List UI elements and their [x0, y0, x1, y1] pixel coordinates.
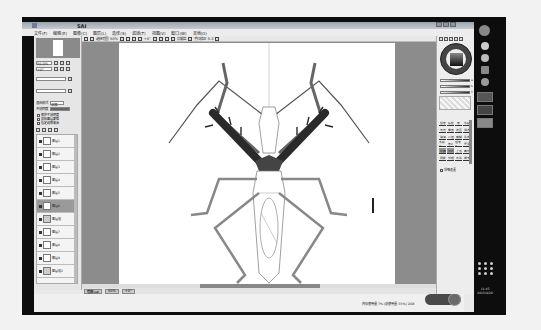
menu-file[interactable]: 文件(F) — [34, 30, 47, 36]
zoom-fit-button[interactable] — [132, 37, 136, 41]
app-icon-4[interactable] — [481, 78, 489, 86]
tool-detail-option[interactable]: 详细设置 — [440, 168, 456, 172]
texture-select[interactable] — [36, 77, 66, 81]
zoom-value[interactable]: 50% — [110, 37, 118, 41]
zoom-out-button[interactable] — [60, 61, 64, 65]
tray-icon[interactable] — [490, 272, 493, 275]
layer-item[interactable]: 图层7 — [37, 226, 77, 239]
eye-icon[interactable] — [39, 231, 42, 234]
stabilizer-value[interactable]: S-3 — [208, 37, 214, 41]
menu-other[interactable]: 其他(O) — [193, 30, 207, 36]
tray-icon[interactable] — [490, 267, 493, 270]
tool-button[interactable]: 橡皮 — [447, 127, 454, 133]
layer-item-selected[interactable]: 图层6 — [37, 200, 77, 213]
blend-mode-select[interactable]: 正常 — [50, 101, 64, 105]
hue-slider[interactable] — [440, 79, 470, 82]
rotate-right-button[interactable] — [159, 37, 163, 41]
flip-button[interactable] — [171, 37, 175, 41]
taskbar-app-2[interactable] — [477, 105, 493, 115]
minimize-button[interactable] — [436, 22, 442, 27]
layer-folder[interactable]: 图层组 — [37, 213, 77, 226]
app-icon-3[interactable] — [481, 66, 489, 74]
tray-icon[interactable] — [490, 262, 493, 265]
canvas[interactable] — [119, 43, 395, 293]
effect-select[interactable] — [36, 89, 66, 93]
tool-button[interactable]: 铅笔2 — [455, 141, 462, 147]
app-icon-2[interactable] — [481, 54, 489, 62]
tool-button[interactable]: 平涂 — [455, 155, 462, 161]
eye-icon[interactable] — [39, 179, 42, 182]
checkbox[interactable] — [440, 169, 443, 172]
tool-button[interactable]: 阴影 — [439, 155, 446, 161]
navigator[interactable] — [36, 38, 80, 58]
menu-filter[interactable]: 滤镜(T) — [132, 30, 146, 36]
tool-button[interactable]: 铅笔 — [439, 120, 446, 126]
zoom-field[interactable]: 50.0% — [36, 61, 52, 65]
eye-icon[interactable] — [39, 270, 42, 273]
zoom-reset-button[interactable] — [138, 37, 142, 41]
layer-item[interactable]: 图层9 — [37, 252, 77, 265]
opacity-slider[interactable] — [50, 107, 70, 111]
swatch-toggle[interactable] — [459, 37, 463, 41]
taskbar-app-1[interactable] — [477, 92, 493, 102]
file-tab[interactable]: 螳螂.sai — [84, 289, 102, 294]
layer-item[interactable]: 图层1 — [37, 135, 77, 148]
layer-item[interactable]: 图层8 — [37, 239, 77, 252]
eye-icon[interactable] — [39, 166, 42, 169]
eye-icon[interactable] — [39, 140, 42, 143]
zoom-in-button[interactable] — [120, 37, 124, 41]
palette-toggle[interactable] — [454, 37, 458, 41]
tool-button[interactable]: 马克 — [439, 127, 446, 133]
tool-button[interactable]: 水彩2 — [439, 141, 446, 147]
tray-icon[interactable] — [478, 267, 481, 270]
antialias-toggle[interactable] — [188, 37, 192, 41]
layer-item[interactable]: 图层3 — [37, 161, 77, 174]
tray-icon[interactable] — [478, 272, 481, 275]
maximize-button[interactable] — [443, 22, 449, 27]
zoom-reset-button[interactable] — [66, 61, 70, 65]
eye-icon[interactable] — [39, 192, 42, 195]
menu-select[interactable]: 选择(S) — [112, 30, 126, 36]
saturation-value-square[interactable] — [450, 53, 463, 66]
eye-icon[interactable] — [39, 205, 42, 208]
app-icon-1[interactable] — [481, 42, 489, 50]
zoom-in-button[interactable] — [54, 61, 58, 65]
rotation-field[interactable]: +0° — [36, 67, 52, 71]
rotate-right-button[interactable] — [60, 67, 64, 71]
layer-folder[interactable]: 图层组2 — [37, 265, 77, 278]
eye-icon[interactable] — [39, 244, 42, 247]
menu-window[interactable]: 窗口(W) — [171, 30, 186, 36]
new-folder-button[interactable] — [42, 128, 46, 132]
effect-button[interactable] — [68, 89, 72, 93]
selection-toggle-2[interactable] — [90, 37, 94, 41]
menu-edit[interactable]: 编辑(E) — [53, 30, 67, 36]
close-button[interactable] — [450, 22, 456, 27]
delete-layer-button[interactable] — [48, 128, 52, 132]
rotate-left-button[interactable] — [153, 37, 157, 41]
tool-button[interactable]: 笔2 — [447, 141, 454, 147]
tray-icon[interactable] — [478, 262, 481, 265]
color-wheel-toggle[interactable] — [439, 37, 443, 41]
layer-item[interactable]: 图层2 — [37, 148, 77, 161]
texture-button[interactable] — [68, 77, 72, 81]
layer-item[interactable]: 图层5 — [37, 187, 77, 200]
tray-icon[interactable] — [484, 267, 487, 270]
tool-button[interactable]: 上色 — [455, 148, 462, 154]
option-selection-source[interactable]: 指定选取来源 — [37, 121, 59, 125]
menu-layer[interactable]: 图层(L) — [93, 30, 106, 36]
menu-canvas[interactable]: 图像(C) — [73, 30, 87, 36]
rotate-left-button[interactable] — [54, 67, 58, 71]
tool-button[interactable]: 喷枪 — [447, 120, 454, 126]
tray-icon[interactable] — [484, 272, 487, 275]
layer-item[interactable]: 图层4 — [37, 174, 77, 187]
tray-icon[interactable] — [484, 262, 487, 265]
tool-scrollbar[interactable] — [469, 120, 472, 164]
menu-view[interactable]: 视图(V) — [152, 30, 166, 36]
hsv-slider-toggle[interactable] — [449, 37, 453, 41]
rotate-reset-button[interactable] — [66, 67, 70, 71]
eye-icon[interactable] — [39, 257, 42, 260]
tool-button-active[interactable]: 勾线 — [447, 148, 454, 154]
eye-icon[interactable] — [39, 153, 42, 156]
rotation-value[interactable]: +0° — [144, 37, 151, 41]
eye-icon[interactable] — [39, 218, 42, 221]
